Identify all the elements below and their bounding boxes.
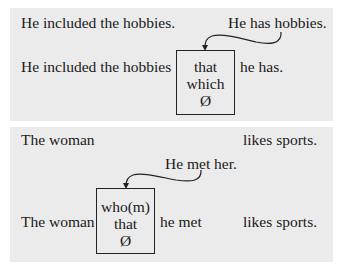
relativizer-box: who(m) that Ø (96, 188, 155, 254)
combined-rest: he met (160, 213, 202, 230)
relativizer-zero: Ø (97, 232, 154, 249)
combined-head: The woman (21, 213, 95, 230)
relativizer-whom: who(m) (97, 198, 154, 215)
combined-predicate: likes sports. (243, 213, 317, 230)
relativizer-that: that (97, 215, 154, 232)
